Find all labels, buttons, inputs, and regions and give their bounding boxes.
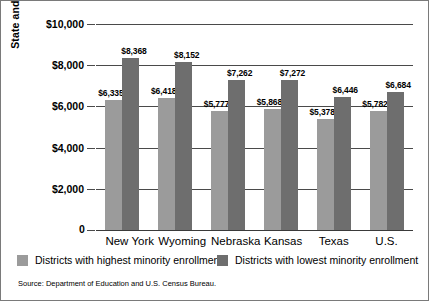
bar-group: $5,378$6,446	[317, 24, 351, 230]
source-note: Source: Department of Education and U.S.…	[18, 279, 216, 288]
legend-item-lowest-minority: Districts with lowest minority enrollmen…	[217, 254, 418, 266]
bar-value-label: $7,272	[280, 68, 305, 78]
bar: $7,262	[228, 80, 245, 230]
y-tick-label: $8,000	[52, 59, 84, 71]
bar: $6,446	[334, 97, 351, 230]
x-tick-label: Texas	[317, 232, 351, 250]
y-axis-tick	[87, 65, 95, 66]
y-tick-label: $10,000	[46, 18, 84, 30]
bar-group: $6,335$8,368	[105, 24, 139, 230]
x-axis-labels: New YorkWyomingNebraskaKansasTexasU.S.	[96, 232, 413, 250]
x-tick-label: Wyoming	[158, 232, 192, 250]
y-tick-label: $4,000	[52, 142, 84, 154]
bar: $8,368	[122, 58, 139, 230]
y-axis-tick	[87, 24, 95, 25]
bar-value-label: $5,782	[362, 99, 387, 109]
x-tick-label: New York	[105, 232, 139, 250]
y-axis-tick	[87, 230, 95, 231]
bar: $6,418	[158, 98, 175, 230]
bar-group: $5,868$7,272	[264, 24, 298, 230]
bar-group: $6,418$8,152	[158, 24, 192, 230]
bar-value-label: $8,368	[121, 46, 146, 56]
bar: $5,777	[211, 111, 228, 230]
bar: $5,868	[264, 109, 281, 230]
bar: $7,272	[281, 80, 298, 230]
y-tick-label: $2,000	[52, 183, 84, 195]
bar-group: $5,782$6,684	[370, 24, 404, 230]
plot-area: $10,000$8,000$6,000$4,000$2,000 $6,335$8…	[96, 24, 413, 230]
bar-value-label: $6,446	[333, 85, 358, 95]
legend-item-highest-minority: Districts with highest minority enrollme…	[17, 254, 217, 266]
bar: $8,152	[175, 62, 192, 230]
bar: $6,335	[105, 100, 122, 231]
bar-groups: $6,335$8,368$6,418$8,152$5,777$7,262$5,8…	[96, 24, 413, 230]
x-tick-label: Nebraska	[211, 232, 245, 250]
bar: $5,782	[370, 111, 387, 230]
bar-value-label: $5,777	[204, 99, 229, 109]
y-axis-tick	[87, 189, 95, 190]
bar: $6,684	[387, 92, 404, 230]
bar-value-label: $7,262	[227, 68, 252, 78]
y-axis-tick	[87, 148, 95, 149]
bar-value-label: $5,868	[257, 97, 282, 107]
legend-swatch-icon-lowest	[217, 255, 228, 266]
bar-value-label: $6,684	[385, 80, 410, 90]
y-axis-title: State and local revenues available per s…	[7, 0, 37, 55]
legend-swatch-icon-highest	[17, 255, 28, 266]
legend-label-lowest: Districts with lowest minority enrollmen…	[235, 254, 418, 266]
legend-label-highest: Districts with highest minority enrollme…	[35, 254, 222, 266]
bar-value-label: $6,418	[151, 86, 176, 96]
bar-group: $5,777$7,262	[211, 24, 245, 230]
y-tick-label-zero: 0	[79, 223, 85, 235]
bar-value-label: $8,152	[174, 50, 199, 60]
gridline	[96, 230, 413, 231]
y-tick-label: $6,000	[52, 100, 84, 112]
x-tick-label: U.S.	[370, 232, 404, 250]
bar: $5,378	[317, 119, 334, 230]
chart-legend: Districts with highest minority enrollme…	[17, 254, 417, 266]
bar-value-label: $5,378	[309, 107, 334, 117]
bar-value-label: $6,335	[98, 88, 123, 98]
chart-figure: State and local revenues available per s…	[0, 0, 429, 301]
y-axis-tick	[87, 106, 95, 107]
x-tick-label: Kansas	[264, 232, 298, 250]
